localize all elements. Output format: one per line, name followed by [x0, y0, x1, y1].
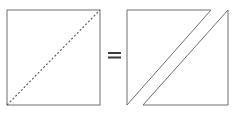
- equals-bar-top: [108, 52, 121, 54]
- equals-sign-group: [108, 52, 121, 59]
- dashed-diagonal-line: [7, 10, 100, 105]
- right-triangles-group: [127, 10, 228, 105]
- equals-bar-bottom: [108, 57, 121, 59]
- figure-canvas: [0, 0, 239, 113]
- geometry-figure: Square with diagonal equals two right tr…: [0, 0, 239, 113]
- upper-left-triangle: [127, 10, 211, 105]
- left-square-group: [7, 10, 100, 105]
- lower-right-triangle: [143, 10, 228, 105]
